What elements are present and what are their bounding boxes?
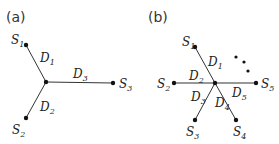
edge-label-d5: D5 [231,86,247,102]
node-label-s4: S4 [233,125,246,141]
node-s5 [254,81,258,85]
node-label-s3: S3 [119,77,132,93]
panel-a-label: (a) [6,9,26,25]
node-label-s2: S2 [12,123,25,139]
node-s4 [234,118,238,122]
node-s2 [172,81,176,85]
edge-d3 [46,82,113,83]
node-s3 [193,118,197,122]
diagram-canvas: (a) (b) S1S2S3D1D2D3 S1S2S3S4S5D1D2D3D4D… [0,0,279,144]
node-s2 [24,116,28,120]
edge-label-d3: D3 [190,90,206,106]
node-s3 [111,81,115,85]
edge-label-d1: D1 [39,51,55,67]
node-label-s1: S1 [182,35,195,51]
panel-b-star-graph: S1S2S3S4S5D1D2D3D4D5 [157,35,274,141]
edge-label-d4: D4 [214,96,230,112]
ellipsis-dot [242,60,245,63]
edge-label-d2: D2 [39,100,55,116]
center-node [44,80,48,84]
center-node [213,81,217,85]
edge-label-d1: D1 [207,55,223,71]
node-label-s2: S2 [157,77,170,93]
ellipsis-dot [246,69,249,72]
edge-label-d3: D3 [72,67,88,83]
node-label-s5: S5 [261,77,274,93]
ellipsis-dot [234,55,237,58]
panel-b-label: (b) [148,9,168,25]
edge-label-d2: D2 [188,69,204,85]
node-s1 [24,43,28,47]
node-label-s3: S3 [186,125,199,141]
node-label-s1: S1 [11,33,24,49]
panel-a-star-graph: S1S2S3D1D2D3 [11,33,132,139]
